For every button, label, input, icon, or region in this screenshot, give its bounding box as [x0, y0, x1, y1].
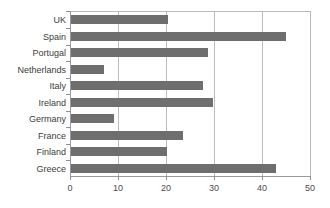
- y-tick-mark: [66, 160, 70, 161]
- category-label-france: France: [38, 131, 66, 141]
- y-tick-mark: [66, 61, 70, 62]
- x-tick-label-40: 40: [247, 183, 277, 194]
- bar-germany: [71, 114, 114, 123]
- bar-finland: [71, 147, 167, 156]
- y-tick-mark: [66, 94, 70, 95]
- x-axis-line: [70, 176, 311, 177]
- category-label-finland: Finland: [36, 147, 66, 157]
- x-tick-label-0: 0: [55, 183, 85, 194]
- x-tick-mark: [262, 176, 263, 180]
- category-label-germany: Germany: [29, 114, 66, 124]
- plot-border-top: [70, 11, 311, 12]
- category-label-spain: Spain: [43, 32, 66, 42]
- category-label-greece: Greece: [36, 164, 66, 174]
- y-tick-mark: [66, 111, 70, 112]
- x-tick-mark: [214, 176, 215, 180]
- bar-portugal: [71, 48, 208, 57]
- bar-uk: [71, 15, 168, 24]
- y-tick-mark: [66, 28, 70, 29]
- x-tick-label-20: 20: [151, 183, 181, 194]
- bar-greece: [71, 164, 276, 173]
- category-label-italy: Italy: [49, 81, 66, 91]
- y-tick-mark: [66, 45, 70, 46]
- category-label-portugal: Portugal: [32, 48, 66, 58]
- category-label-netherlands: Netherlands: [17, 65, 66, 75]
- x-tick-mark: [166, 176, 167, 180]
- bar-france: [71, 131, 183, 140]
- x-tick-label-10: 10: [103, 183, 133, 194]
- x-tick-label-50: 50: [295, 183, 325, 194]
- x-tick-mark: [310, 176, 311, 180]
- y-tick-mark: [66, 11, 70, 12]
- x-tick-mark: [118, 176, 119, 180]
- bar-netherlands: [71, 65, 104, 74]
- y-tick-mark: [66, 127, 70, 128]
- plot-border-right: [310, 11, 311, 177]
- bar-italy: [71, 81, 203, 90]
- x-tick-label-30: 30: [199, 183, 229, 194]
- bar-spain: [71, 32, 286, 41]
- category-label-ireland: Ireland: [38, 98, 66, 108]
- horizontal-bar-chart: UK Spain Portugal Netherlands Italy Irel…: [0, 0, 330, 208]
- bar-ireland: [71, 98, 213, 107]
- y-tick-mark: [66, 144, 70, 145]
- y-tick-mark: [66, 78, 70, 79]
- x-tick-mark: [70, 176, 71, 180]
- category-label-uk: UK: [53, 15, 66, 25]
